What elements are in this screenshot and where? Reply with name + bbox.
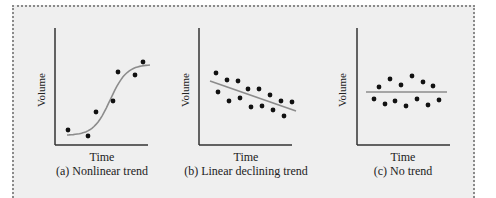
data-point — [141, 60, 146, 65]
data-point — [66, 128, 71, 133]
data-point — [279, 99, 284, 104]
data-point — [410, 74, 415, 79]
data-point — [116, 70, 121, 75]
data-point — [86, 134, 91, 139]
data-point — [111, 99, 116, 104]
data-point — [216, 90, 221, 95]
y-axis-label: Volume — [35, 73, 47, 107]
data-point — [249, 105, 254, 110]
data-point — [404, 104, 409, 109]
x-axis-label: Time — [391, 150, 416, 164]
data-point — [383, 102, 388, 107]
panel-caption: (b) Linear declining trend — [184, 164, 308, 178]
data-point — [246, 87, 251, 92]
data-point — [260, 104, 265, 109]
trend-curve — [67, 65, 150, 135]
data-point — [372, 97, 377, 102]
data-point — [388, 77, 393, 82]
data-point — [271, 108, 276, 113]
x-axis-label: Time — [234, 150, 259, 164]
data-point — [421, 80, 426, 85]
data-point — [290, 100, 295, 105]
data-point — [238, 96, 243, 101]
data-point — [393, 99, 398, 104]
y-axis-label: Volume — [336, 73, 348, 107]
data-point — [236, 79, 241, 84]
panel-caption: (a) Nonlinear trend — [56, 164, 148, 178]
data-point — [257, 87, 262, 92]
data-points — [66, 60, 146, 139]
panel-b: Volume Time (b) Linear declining trend — [179, 28, 308, 178]
data-point — [268, 93, 273, 98]
panel-a: Volume Time (a) Nonlinear trend — [35, 28, 150, 178]
trend-plots: Volume Time (a) Nonlinear trend Volume T… — [0, 0, 496, 198]
data-point — [227, 99, 232, 104]
y-axis-label: Volume — [179, 73, 191, 107]
data-point — [426, 103, 431, 108]
x-axis-label: Time — [90, 150, 115, 164]
panel-c: Volume Time (c) No trend — [336, 28, 450, 178]
data-points — [214, 71, 295, 119]
data-point — [282, 114, 287, 119]
data-point — [437, 98, 442, 103]
data-points — [372, 74, 442, 109]
data-point — [399, 83, 404, 88]
data-point — [133, 73, 138, 78]
panel-caption: (c) No trend — [374, 164, 433, 178]
data-point — [377, 85, 382, 90]
data-point — [415, 97, 420, 102]
data-point — [431, 84, 436, 89]
data-point — [225, 78, 230, 83]
data-point — [214, 71, 219, 76]
data-point — [94, 110, 99, 115]
